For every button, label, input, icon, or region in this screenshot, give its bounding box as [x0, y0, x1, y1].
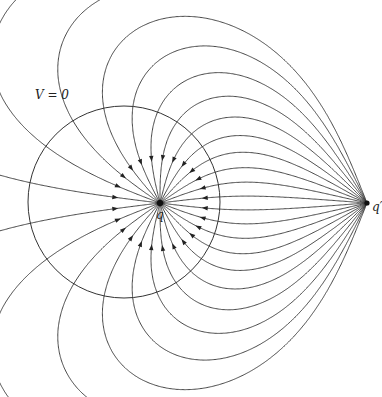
charge-q-prime-label: q′: [372, 200, 382, 214]
field-line: [162, 152, 367, 203]
charge-q-dot: [157, 200, 163, 206]
field-line: [0, 169, 157, 203]
arrowhead-icon: [200, 216, 206, 220]
field-line: [161, 117, 367, 203]
field-line: [162, 203, 367, 254]
arrowhead-icon: [200, 185, 206, 189]
field-line: [160, 96, 367, 203]
arrowhead-icon: [115, 183, 121, 187]
field-line: [102, 16, 367, 203]
arrowhead-icon: [195, 226, 201, 231]
arrowhead-icon: [161, 155, 165, 161]
arrowhead-icon: [128, 165, 133, 171]
field-line: [163, 196, 367, 203]
arrowhead-icon: [138, 241, 142, 247]
field-lines: [0, 0, 367, 397]
field-line: [160, 203, 367, 310]
charge-q-prime-dot: [364, 200, 369, 205]
arrowhead-icon: [115, 218, 121, 222]
field-line: [0, 203, 157, 237]
arrowhead-icon: [112, 195, 118, 199]
arrowhead-icon: [172, 156, 176, 162]
field-line: [132, 203, 367, 360]
arrowhead-icon: [112, 207, 118, 211]
arrowhead-icon: [172, 243, 176, 249]
arrowhead-icon: [195, 176, 201, 181]
charge-q-label: q: [156, 208, 164, 222]
arrowhead-icon: [161, 245, 165, 251]
field-line: [132, 46, 367, 203]
field-line: [58, 205, 158, 397]
arrowhead-icon: [128, 235, 133, 241]
arrowhead-icon: [138, 159, 142, 165]
field-line: [161, 203, 367, 289]
field-line: [58, 0, 158, 201]
field-line: [0, 204, 157, 397]
field-line: [163, 203, 367, 210]
equipotential-label: V = 0: [35, 88, 69, 102]
